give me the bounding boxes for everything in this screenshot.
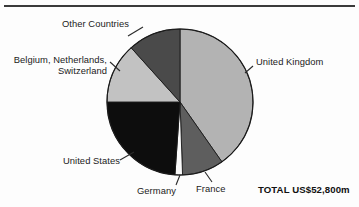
slice-label-united-kingdom: United Kingdom — [256, 56, 323, 67]
leader-line-france — [205, 172, 212, 182]
chart-area: Other Countries Belgium, Netherlands,Swi… — [0, 0, 359, 207]
pie-chart-figure: Other Countries Belgium, Netherlands,Swi… — [0, 0, 359, 207]
pie-chart-svg — [0, 0, 359, 207]
leader-line-germany — [176, 175, 180, 185]
slice-label-germany: Germany — [137, 185, 176, 196]
benelux-line-2: Switzerland — [58, 65, 107, 76]
pie-slices-group — [107, 29, 253, 175]
total-value-label: TOTAL US$52,800m — [258, 184, 350, 195]
slice-label-united-states: United States — [63, 155, 120, 166]
benelux-line-1: Belgium, Netherlands, — [14, 54, 107, 65]
slice-label-france: France — [196, 183, 225, 194]
leader-line-united-kingdom — [245, 66, 253, 73]
slice-label-benelux: Belgium, Netherlands,Switzerland — [4, 54, 107, 77]
leader-line-other-countries — [128, 27, 143, 36]
slice-label-other-countries: Other Countries — [62, 18, 129, 29]
